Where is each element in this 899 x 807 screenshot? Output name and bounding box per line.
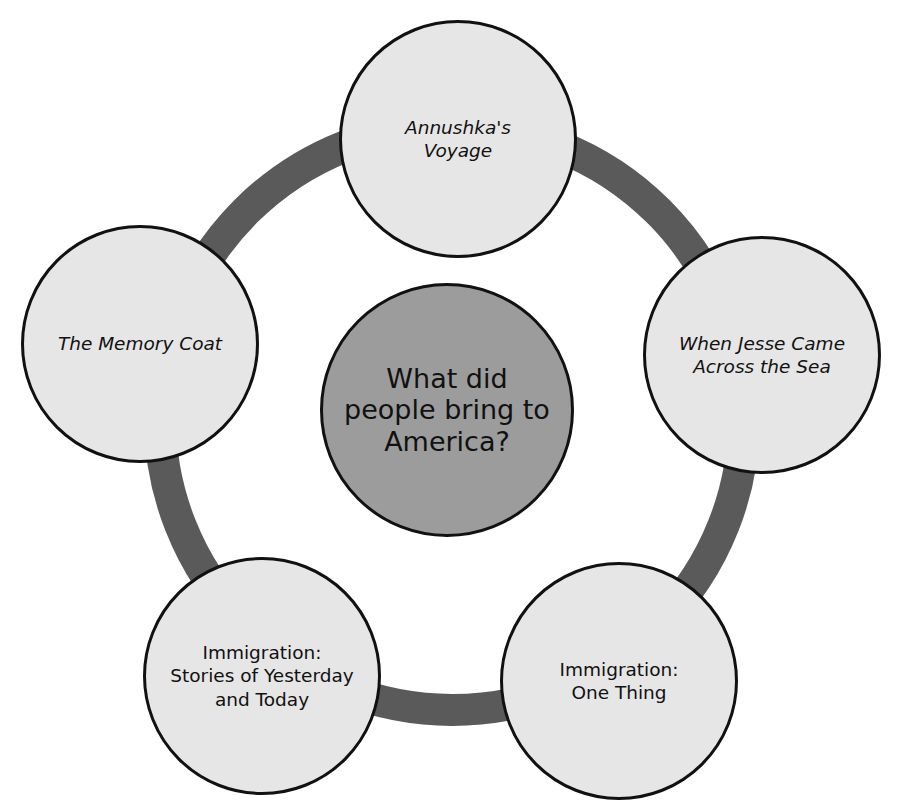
- center-question-node: What did people bring to America?: [320, 283, 574, 537]
- node-label: Annushka's Voyage: [405, 116, 511, 162]
- node-immigration-one-thing: Immigration: One Thing: [500, 562, 738, 800]
- node-the-memory-coat: The Memory Coat: [21, 225, 259, 463]
- node-label: The Memory Coat: [58, 332, 222, 355]
- node-when-jesse-came-across-the-sea: When Jesse Came Across the Sea: [643, 236, 881, 474]
- center-question-text: What did people bring to America?: [344, 363, 550, 456]
- node-immigration-stories-of-yesterday-and-today: Immigration: Stories of Yesterday and To…: [143, 557, 381, 795]
- node-label: Immigration: Stories of Yesterday and To…: [170, 641, 353, 710]
- node-annushkas-voyage: Annushka's Voyage: [339, 20, 577, 258]
- node-label: When Jesse Came Across the Sea: [679, 332, 845, 378]
- node-label: Immigration: One Thing: [560, 658, 679, 704]
